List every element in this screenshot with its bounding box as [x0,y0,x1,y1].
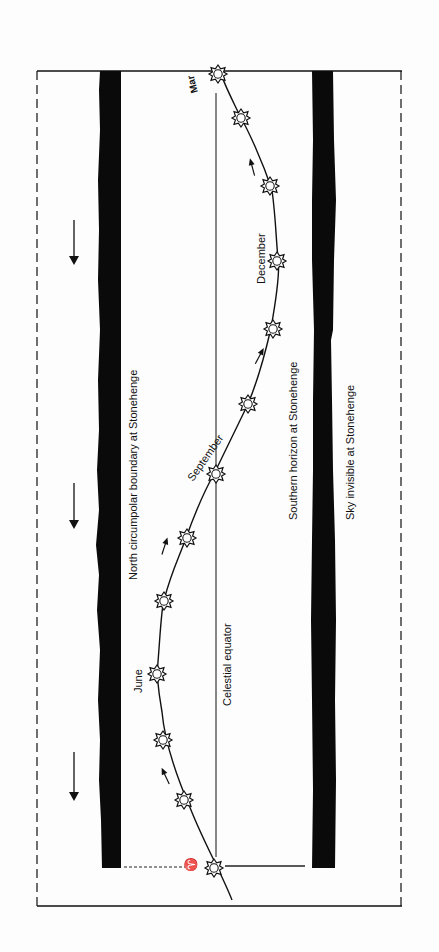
north-boundary-label: North circumpolar boundary at Stonehenge [127,370,139,580]
southern-horizon-band [311,71,336,868]
arrow-down-icon [69,220,79,265]
sky-invisible-label: Sky invisible at Stonehenge [344,385,356,520]
arrow-down-icon [69,752,79,801]
north-circumpolar-band [96,71,121,868]
arrow-icon [247,157,257,176]
sun-icon [261,177,279,195]
sun-icon [155,592,173,610]
ecliptic-curve [157,70,279,900]
sun-icon [268,252,286,270]
sun-icon [232,109,250,127]
june-label: June [132,669,144,693]
sun-icon [209,65,227,83]
southern-horizon-label: Southern horizon at Stonehenge [287,362,299,520]
sun-icon [154,731,172,749]
arrow-down-icon [69,483,79,529]
march-label: Mar [185,74,200,94]
arrow-icon [159,536,170,555]
celestial-equator-label: Celestial equator [221,623,233,706]
ecliptic-diagram: North circumpolar boundary at Stonehenge… [0,0,439,952]
sun-icon [175,791,193,809]
sun-icon [148,665,166,683]
aries-symbol: ♈ [184,857,198,872]
diurnal-arrows [69,220,79,801]
december-label: December [255,233,267,284]
sun-icon [264,320,282,338]
arrow-icon [159,766,172,785]
sun-icon [239,395,257,413]
sun-markers [148,65,286,877]
sun-icon [178,529,196,547]
sun-icon [207,465,225,483]
sun-icon [205,859,223,877]
